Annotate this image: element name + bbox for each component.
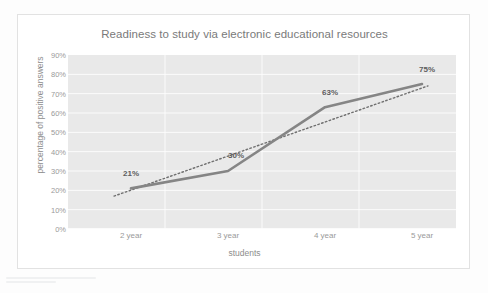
trendline-dotted xyxy=(114,86,428,196)
data-series-line xyxy=(131,84,422,188)
y-tick-label: 10% xyxy=(40,205,66,214)
y-tick-label: 0% xyxy=(40,225,66,234)
line-chart-svg xyxy=(68,55,456,229)
y-tick-label: 20% xyxy=(40,186,66,195)
x-tick-label: 4 year xyxy=(295,231,355,240)
x-axis-tick-labels: 2 year 3 year 4 year 5 year xyxy=(68,231,456,245)
x-axis-title: students xyxy=(18,248,471,258)
scan-artifact xyxy=(6,277,96,283)
y-tick-label: 50% xyxy=(40,128,66,137)
x-tick-label: 3 year xyxy=(198,231,258,240)
y-tick-label: 40% xyxy=(40,147,66,156)
y-tick-label: 60% xyxy=(40,108,66,117)
y-tick-label: 90% xyxy=(40,51,66,60)
vertical-gridlines xyxy=(165,55,359,229)
point-label-3-year: 30% xyxy=(228,151,244,160)
y-tick-label: 80% xyxy=(40,70,66,79)
x-tick-label: 5 year xyxy=(392,231,452,240)
y-tick-label: 30% xyxy=(40,166,66,175)
plot-area: 21% 30% 63% 75% xyxy=(68,55,456,229)
chart-card: Readiness to study via electronic educat… xyxy=(17,14,470,269)
point-label-2-year: 21% xyxy=(123,169,139,178)
point-label-5-year: 75% xyxy=(419,65,435,74)
x-tick-label: 2 year xyxy=(101,231,161,240)
point-label-4-year: 63% xyxy=(322,88,338,97)
y-tick-label: 70% xyxy=(40,89,66,98)
y-axis-tick-labels: 90% 80% 70% 60% 50% 40% 30% 20% 10% 0% xyxy=(38,55,66,229)
chart-title: Readiness to study via electronic educat… xyxy=(18,28,471,40)
